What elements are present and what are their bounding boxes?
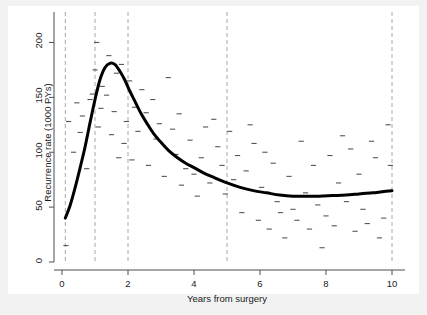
- fitted-curve: [65, 63, 392, 218]
- x-tick-label-4: 4: [174, 278, 214, 289]
- x-tick-label-6: 6: [240, 278, 280, 289]
- figure-container: 0 2 4 6 8 10 0 50 100 150 200 Recurrence…: [0, 0, 427, 315]
- x-tick-label-2: 2: [108, 278, 148, 289]
- observed-points-group: [63, 42, 393, 247]
- x-tick-label-8: 8: [306, 278, 346, 289]
- y-tick-label-0: 0: [33, 246, 44, 276]
- chart-svg: [0, 0, 427, 315]
- x-axis-title: Years from surgery: [42, 293, 412, 304]
- x-tick-label-0: 0: [42, 278, 82, 289]
- axis-lines-group: [54, 12, 405, 270]
- knot-lines-group: [65, 12, 392, 262]
- y-axis-title: Recurrence rate (1000 PYs): [42, 48, 53, 238]
- x-tick-label-10: 10: [372, 278, 412, 289]
